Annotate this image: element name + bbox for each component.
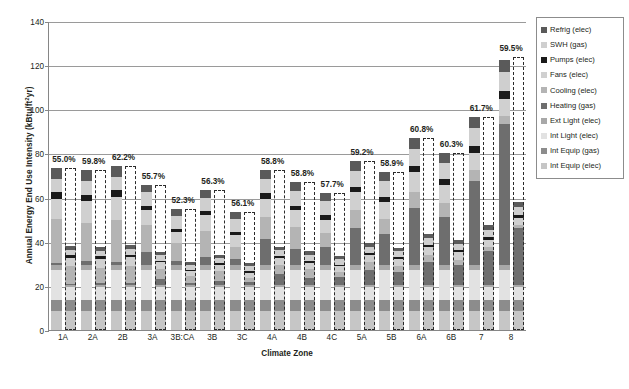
baseline-bar-wrap-5B[interactable] [379, 22, 390, 330]
proposed-bar-2A[interactable] [95, 247, 106, 330]
bar-segment-fans-elec- [453, 252, 464, 260]
bar-segment-heating-gas- [290, 249, 301, 266]
baseline-bar-wrap-3B:CA[interactable] [171, 22, 182, 330]
baseline-bar-1A[interactable] [51, 168, 62, 330]
proposed-bar-wrap-1A[interactable] [65, 22, 76, 330]
savings-label-4C: 57.7% [321, 180, 344, 189]
bar-segment-int-light-elec- [185, 287, 196, 300]
baseline-bar-3B:CA[interactable] [171, 209, 182, 330]
baseline-bar-wrap-3C[interactable] [230, 22, 241, 330]
y-tick-label-40: 40 [35, 238, 44, 247]
proposed-bar-3B:CA[interactable] [185, 262, 196, 330]
bar-segment-int-equip-elec- [483, 311, 494, 330]
bar-segment-refrig-elec- [499, 60, 510, 72]
proposed-bar-4A[interactable] [274, 247, 285, 330]
proposed-bar-wrap-3C[interactable] [244, 22, 255, 330]
bar-segment-int-equip-gas- [453, 300, 464, 311]
baseline-bar-7[interactable] [469, 117, 480, 330]
bar-segment-cooling-elec- [51, 219, 62, 263]
proposed-bar-wrap-6B[interactable] [453, 22, 464, 330]
baseline-bar-wrap-2B[interactable] [111, 22, 122, 330]
baseline-bar-wrap-2A[interactable] [81, 22, 92, 330]
bar-segment-int-equip-gas- [379, 300, 390, 311]
proposed-bar-wrap-2B[interactable] [125, 22, 136, 330]
bar-segment-int-light-elec- [51, 270, 62, 300]
proposed-bar-wrap-5B[interactable] [393, 22, 404, 330]
legend-swatch-icon [541, 103, 547, 109]
proposed-bar-wrap-7[interactable] [483, 22, 494, 330]
baseline-bar-6B[interactable] [439, 153, 450, 330]
bar-segment-cooling-elec- [274, 265, 285, 274]
bar-segment-refrig-elec- [409, 138, 420, 149]
proposed-bar-2B[interactable] [125, 245, 136, 330]
baseline-bar-wrap-4A[interactable] [260, 22, 271, 330]
baseline-bar-4B[interactable] [290, 182, 301, 330]
baseline-bar-4A[interactable] [260, 170, 271, 330]
proposed-bar-5B[interactable] [393, 248, 404, 331]
baseline-bar-6A[interactable] [409, 138, 420, 330]
baseline-bar-wrap-8[interactable] [499, 22, 510, 330]
proposed-bar-wrap-3B:CA[interactable] [185, 22, 196, 330]
bar-segment-cooling-elec- [290, 227, 301, 249]
proposed-bar-5A[interactable] [364, 243, 375, 330]
bar-segment-int-equip-elec- [260, 311, 271, 330]
proposed-bar-7[interactable] [483, 225, 494, 330]
x-tick-label-5A: 5A [347, 333, 377, 342]
baseline-bar-wrap-1A[interactable] [51, 22, 62, 330]
baseline-bar-3B[interactable] [200, 190, 211, 330]
proposed-bar-wrap-5A[interactable] [364, 22, 375, 330]
legend-item-pumps-elec-[interactable]: Pumps (elec) [541, 52, 620, 67]
proposed-bar-3B[interactable] [214, 255, 225, 330]
bar-segment-heating-gas- [469, 181, 480, 265]
legend-item-fans-elec-[interactable]: Fans (elec) [541, 68, 620, 83]
bar-segment-fans-elec- [423, 247, 434, 255]
bar-segment-int-equip-gas- [290, 300, 301, 311]
baseline-bar-wrap-6B[interactable] [439, 22, 450, 330]
bar-segment-pumps-elec- [469, 146, 480, 153]
bar-segment-int-equip-elec- [364, 311, 375, 330]
proposed-bar-wrap-8[interactable] [513, 22, 524, 330]
legend-item-cooling-elec-[interactable]: Cooling (elec) [541, 83, 620, 98]
legend-item-int-light-elec-[interactable]: Int Light (elec) [541, 128, 620, 143]
proposed-bar-6A[interactable] [423, 234, 434, 330]
baseline-bar-5A[interactable] [350, 161, 361, 330]
proposed-bar-wrap-6A[interactable] [423, 22, 434, 330]
proposed-bar-wrap-4A[interactable] [274, 22, 285, 330]
proposed-bar-wrap-2A[interactable] [95, 22, 106, 330]
bar-segment-pumps-elec- [81, 195, 92, 202]
proposed-bar-wrap-4C[interactable] [334, 22, 345, 330]
proposed-bar-3A[interactable] [155, 252, 166, 330]
baseline-bar-wrap-6A[interactable] [409, 22, 420, 330]
legend-item-heating-gas-[interactable]: Heating (gas) [541, 98, 620, 113]
proposed-bar-4C[interactable] [334, 256, 345, 330]
baseline-bar-3A[interactable] [141, 185, 152, 330]
bar-segment-int-equip-elec- [439, 311, 450, 330]
baseline-bar-wrap-4C[interactable] [320, 22, 331, 330]
legend-item-refrig-elec-[interactable]: Refrig (elec) [541, 22, 620, 37]
legend-item-int-equip-gas-[interactable]: Int Equip (gas) [541, 144, 620, 159]
proposed-bar-3C[interactable] [244, 263, 255, 330]
legend-item-swh-gas-[interactable]: SWH (gas) [541, 37, 620, 52]
baseline-bar-wrap-5A[interactable] [350, 22, 361, 330]
legend-item-ext-light-elec-[interactable]: Ext Light (elec) [541, 113, 620, 128]
proposed-bar-1A[interactable] [65, 246, 76, 330]
proposed-bar-8[interactable] [513, 202, 524, 330]
legend-item-int-equip-elec-[interactable]: Int Equip (elec) [541, 159, 620, 174]
bar-segment-int-equip-elec- [320, 311, 331, 330]
bar-segment-swh-gas- [81, 181, 92, 194]
bar-segment-int-equip-gas- [334, 300, 345, 311]
proposed-bar-4B[interactable] [304, 251, 315, 330]
proposed-bar-6B[interactable] [453, 240, 464, 330]
baseline-bar-2A[interactable] [81, 170, 92, 330]
baseline-bar-3C[interactable] [230, 212, 241, 330]
bar-segment-int-equip-elec- [379, 311, 390, 330]
baseline-bar-5B[interactable] [379, 172, 390, 330]
bar-segment-fans-elec- [290, 210, 301, 227]
baseline-bar-8[interactable] [499, 60, 510, 330]
baseline-bar-2B[interactable] [111, 166, 122, 330]
baseline-bar-wrap-7[interactable] [469, 22, 480, 330]
baseline-bar-4C[interactable] [320, 193, 331, 330]
savings-label-1A: 55.0% [52, 155, 75, 164]
bar-group-8: 59.5% [496, 22, 526, 330]
bar-segment-cooling-elec- [320, 233, 331, 247]
